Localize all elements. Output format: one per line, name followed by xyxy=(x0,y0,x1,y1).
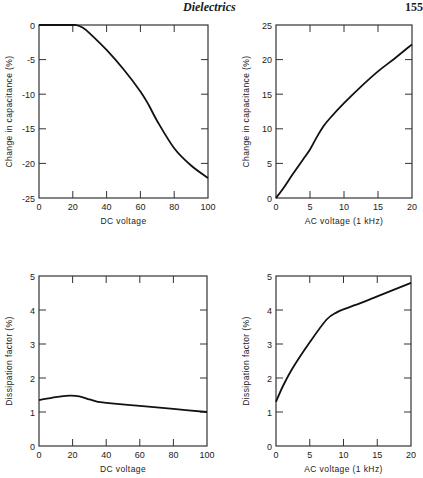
y-tick-label: 5 xyxy=(267,159,272,169)
chart-ac-dissipation: 05101520012345AC voltage (1 kHz)Dissipat… xyxy=(241,272,416,475)
y-tick-label: 2 xyxy=(30,374,35,384)
y-tick-label: 0 xyxy=(30,21,35,31)
y-tick-label: -25 xyxy=(22,194,35,204)
x-tick-label: 80 xyxy=(168,450,178,460)
y-tick-label: 0 xyxy=(267,442,272,452)
plot-frame xyxy=(39,25,208,198)
y-tick-label: 1 xyxy=(267,408,272,418)
x-tick-label: 10 xyxy=(338,450,348,460)
y-tick-label: -10 xyxy=(22,90,35,100)
x-tick-label: 40 xyxy=(102,202,112,212)
y-tick-label: 5 xyxy=(30,272,35,282)
y-tick-label: 0 xyxy=(267,194,272,204)
x-tick-label: 15 xyxy=(373,202,383,212)
x-tick-label: 100 xyxy=(199,450,214,460)
y-tick-label: 15 xyxy=(262,90,272,100)
x-tick-label: 0 xyxy=(273,202,278,212)
y-tick-label: 4 xyxy=(30,306,35,316)
x-tick-label: 5 xyxy=(307,450,312,460)
plot-frame xyxy=(39,276,207,446)
y-tick-label: 3 xyxy=(267,340,272,350)
x-axis-label: DC voltage xyxy=(100,464,146,474)
x-tick-label: 40 xyxy=(101,450,111,460)
data-curve xyxy=(39,25,208,178)
x-tick-label: 20 xyxy=(407,202,417,212)
x-axis-label: DC voltage xyxy=(100,216,146,226)
data-curve xyxy=(39,396,207,412)
chart-dc-dissipation: 020406080100012345DC voltageDissipation … xyxy=(4,272,215,475)
chart-dc-capacitance: 0204060801000-5-10-15-20-25DC voltageCha… xyxy=(4,21,216,227)
x-tick-label: 15 xyxy=(372,450,382,460)
x-tick-label: 20 xyxy=(406,450,416,460)
y-tick-label: 10 xyxy=(262,124,272,134)
data-curve xyxy=(276,283,411,402)
x-tick-label: 100 xyxy=(200,202,215,212)
chart-ac-capacitance: 051015200510152025AC voltage (1 kHz)Chan… xyxy=(241,21,417,227)
x-tick-label: 5 xyxy=(307,202,312,212)
x-axis-label: AC voltage (1 kHz) xyxy=(305,216,384,226)
x-tick-label: 60 xyxy=(135,202,145,212)
y-axis-label: Dissipation factor (%) xyxy=(4,316,14,406)
x-tick-label: 20 xyxy=(68,202,78,212)
x-tick-label: 20 xyxy=(68,450,78,460)
x-tick-label: 60 xyxy=(135,450,145,460)
x-axis-label: AC voltage (1 kHz) xyxy=(304,464,383,474)
x-tick-label: 80 xyxy=(169,202,179,212)
y-tick-label: -15 xyxy=(22,124,35,134)
y-tick-label: 3 xyxy=(30,340,35,350)
y-tick-label: 2 xyxy=(267,374,272,384)
plot-frame xyxy=(276,25,412,198)
y-axis-label: Change in capacitance (%) xyxy=(4,55,14,167)
y-tick-label: -5 xyxy=(27,55,35,65)
y-tick-label: 4 xyxy=(267,306,272,316)
x-tick-label: 0 xyxy=(273,450,278,460)
y-axis-label: Dissipation factor (%) xyxy=(241,316,251,406)
y-tick-label: -20 xyxy=(22,159,35,169)
x-tick-label: 0 xyxy=(36,202,41,212)
x-tick-label: 10 xyxy=(339,202,349,212)
y-tick-label: 20 xyxy=(262,55,272,65)
x-tick-label: 0 xyxy=(36,450,41,460)
y-tick-label: 25 xyxy=(262,21,272,31)
y-tick-label: 5 xyxy=(267,272,272,282)
y-axis-label: Change in capacitance (%) xyxy=(241,55,251,167)
y-tick-label: 1 xyxy=(30,408,35,418)
y-tick-label: 0 xyxy=(30,442,35,452)
data-curve xyxy=(276,44,412,198)
